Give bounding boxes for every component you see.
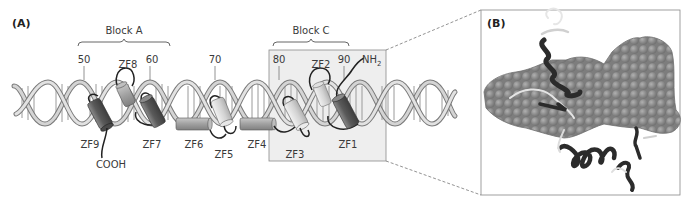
block-c-brace bbox=[273, 39, 349, 46]
label-zf9: ZF9 bbox=[81, 139, 100, 150]
panel-b-label: (B) bbox=[487, 17, 505, 30]
position-60: 60 bbox=[146, 54, 159, 65]
label-zf8: ZF8 bbox=[119, 59, 138, 70]
zoom-line-top bbox=[386, 10, 481, 50]
label-cooh: COOH bbox=[96, 159, 126, 170]
zinc-finger-zf8 bbox=[115, 68, 136, 108]
position-90: 90 bbox=[338, 54, 351, 65]
label-zf1: ZF1 bbox=[339, 139, 358, 150]
position-70: 70 bbox=[209, 54, 222, 65]
figure-canvas: (A) Block A Block C 50 60 70 80 90 bbox=[0, 0, 689, 207]
panel-a-label: (A) bbox=[12, 17, 31, 30]
position-80: 80 bbox=[273, 54, 286, 65]
block-a-label: Block A bbox=[105, 25, 142, 36]
label-zf7: ZF7 bbox=[143, 139, 162, 150]
zoom-line-bottom bbox=[386, 161, 481, 195]
label-zf2: ZF2 bbox=[312, 59, 331, 70]
block-c-label: Block C bbox=[292, 25, 329, 36]
label-zf3: ZF3 bbox=[286, 149, 305, 160]
label-zf4: ZF4 bbox=[248, 139, 267, 150]
label-zf5: ZF5 bbox=[215, 149, 234, 160]
block-a-brace bbox=[78, 39, 170, 46]
dna-double-helix bbox=[14, 82, 455, 124]
label-zf6: ZF6 bbox=[185, 139, 204, 150]
position-50: 50 bbox=[78, 54, 91, 65]
